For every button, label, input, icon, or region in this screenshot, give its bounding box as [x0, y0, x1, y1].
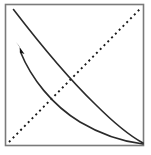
diagram-canvas: [0, 0, 151, 155]
figure-background: [0, 0, 151, 155]
figure-container: [0, 0, 151, 155]
